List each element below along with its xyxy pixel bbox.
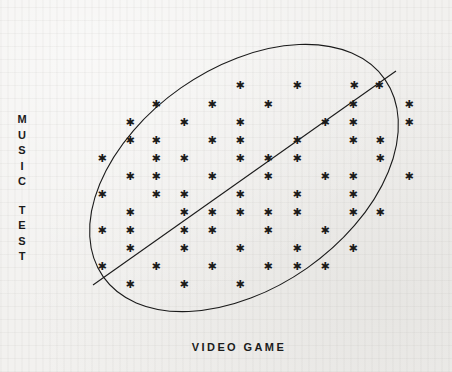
y-axis-label-char: E	[10, 218, 34, 234]
data-point-star-icon: ✱	[320, 170, 329, 183]
y-axis-label-char: I	[10, 159, 34, 175]
envelope-ellipse-path	[40, 0, 448, 367]
data-point-star-icon: ✱	[320, 116, 329, 129]
data-point-star-icon: ✱	[263, 170, 272, 183]
data-point-star-icon: ✱	[235, 188, 244, 201]
data-point-star-icon: ✱	[151, 170, 160, 183]
y-axis-label-char: S	[10, 234, 34, 250]
data-point-star-icon: ✱	[97, 152, 106, 165]
y-axis-label-char: T	[10, 249, 34, 265]
data-point-star-icon: ✱	[292, 188, 301, 201]
y-axis-label: MUSICTEST	[10, 112, 34, 265]
data-point-star-icon: ✱	[292, 260, 301, 273]
y-axis-label-char: C	[10, 174, 34, 190]
data-point-star-icon: ✱	[151, 134, 160, 147]
data-point-star-icon: ✱	[125, 206, 134, 219]
data-point-star-icon: ✱	[235, 278, 244, 291]
data-point-star-icon: ✱	[151, 260, 160, 273]
data-point-star-icon: ✱	[404, 170, 413, 183]
data-point-star-icon: ✱	[374, 79, 383, 92]
data-point-star-icon: ✱	[207, 134, 216, 147]
x-axis-label: VIDEO GAME	[0, 341, 452, 353]
data-point-star-icon: ✱	[292, 206, 301, 219]
data-point-star-icon: ✱	[179, 152, 188, 165]
data-point-star-icon: ✱	[263, 224, 272, 237]
data-point-star-icon: ✱	[292, 152, 301, 165]
data-point-star-icon: ✱	[179, 278, 188, 291]
data-point-star-icon: ✱	[348, 242, 357, 255]
data-point-star-icon: ✱	[292, 242, 301, 255]
data-point-star-icon: ✱	[125, 242, 134, 255]
data-point-star-icon: ✱	[320, 224, 329, 237]
data-point-star-icon: ✱	[207, 224, 216, 237]
data-point-star-icon: ✱	[207, 260, 216, 273]
data-point-star-icon: ✱	[125, 224, 134, 237]
data-point-star-icon: ✱	[235, 206, 244, 219]
data-point-star-icon: ✱	[404, 116, 413, 129]
data-point-star-icon: ✱	[375, 134, 384, 147]
data-point-star-icon: ✱	[235, 134, 244, 147]
data-envelope-ellipse	[40, 0, 448, 367]
data-point-star-icon: ✱	[125, 170, 134, 183]
data-point-star-icon: ✱	[292, 134, 301, 147]
data-point-star-icon: ✱	[125, 134, 134, 147]
data-point-star-icon: ✱	[179, 242, 188, 255]
data-point-star-icon: ✱	[375, 206, 384, 219]
data-point-star-icon: ✱	[263, 98, 272, 111]
data-point-star-icon: ✱	[125, 116, 134, 129]
y-axis-label-char: T	[10, 203, 34, 219]
data-point-star-icon: ✱	[348, 134, 357, 147]
data-point-star-icon: ✱	[179, 188, 188, 201]
y-axis-label-word-gap	[10, 190, 34, 203]
data-point-star-icon: ✱	[404, 98, 413, 111]
data-point-star-icon: ✱	[348, 206, 357, 219]
data-point-star-icon: ✱	[348, 170, 357, 183]
data-point-star-icon: ✱	[207, 98, 216, 111]
data-point-star-icon: ✱	[97, 188, 106, 201]
data-point-star-icon: ✱	[151, 188, 160, 201]
data-point-star-icon: ✱	[320, 260, 329, 273]
plot-canvas: ✱✱✱✱✱✱✱✱✱✱✱✱✱✱✱✱✱✱✱✱✱✱✱✱✱✱✱✱✱✱✱✱✱✱✱✱✱✱✱✱…	[0, 0, 452, 372]
data-point-star-icon: ✱	[179, 116, 188, 129]
data-point-star-icon: ✱	[235, 79, 244, 92]
data-point-star-icon: ✱	[348, 98, 357, 111]
y-axis-label-char: S	[10, 143, 34, 159]
data-point-star-icon: ✱	[235, 242, 244, 255]
data-point-star-icon: ✱	[292, 79, 301, 92]
data-point-star-icon: ✱	[263, 152, 272, 165]
data-point-star-icon: ✱	[348, 116, 357, 129]
y-axis-label-char: M	[10, 112, 34, 128]
scatter-plot-figure: ✱✱✱✱✱✱✱✱✱✱✱✱✱✱✱✱✱✱✱✱✱✱✱✱✱✱✱✱✱✱✱✱✱✱✱✱✱✱✱✱…	[0, 0, 452, 372]
data-point-star-icon: ✱	[348, 188, 357, 201]
data-point-star-icon: ✱	[179, 224, 188, 237]
data-point-star-icon: ✱	[207, 170, 216, 183]
data-point-star-icon: ✱	[235, 116, 244, 129]
data-point-star-icon: ✱	[207, 206, 216, 219]
data-point-star-icon: ✱	[235, 152, 244, 165]
y-axis-label-char: U	[10, 128, 34, 144]
data-point-star-icon: ✱	[263, 260, 272, 273]
data-points-layer: ✱✱✱✱✱✱✱✱✱✱✱✱✱✱✱✱✱✱✱✱✱✱✱✱✱✱✱✱✱✱✱✱✱✱✱✱✱✱✱✱…	[97, 79, 413, 291]
data-point-star-icon: ✱	[125, 278, 134, 291]
data-point-star-icon: ✱	[151, 98, 160, 111]
data-point-star-icon: ✱	[375, 152, 384, 165]
data-point-star-icon: ✱	[97, 260, 106, 273]
data-point-star-icon: ✱	[97, 224, 106, 237]
data-point-star-icon: ✱	[179, 206, 188, 219]
data-point-star-icon: ✱	[349, 79, 358, 92]
data-point-star-icon: ✱	[151, 152, 160, 165]
data-point-star-icon: ✱	[263, 206, 272, 219]
